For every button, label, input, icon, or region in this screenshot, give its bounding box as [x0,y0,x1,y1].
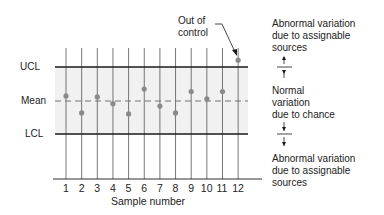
x-tick-label: 11 [217,182,228,194]
data-point [95,94,100,99]
data-point [157,104,162,109]
data-point [204,96,209,101]
out-of-control-label: Out of control [178,15,208,39]
data-point [142,87,147,92]
note-line: Abnormal variation [272,18,355,30]
mean-label: Mean [21,95,46,107]
note-line: variation [272,97,335,109]
arrow-down-icon [282,142,286,146]
arrow-up-icon [282,56,286,60]
arrow-icon [282,70,286,74]
data-point [79,110,84,115]
leader-line [215,24,235,52]
note-abnormal-bottom: Abnormal variation due to assignable sou… [272,153,355,189]
arrowhead-icon [232,49,237,56]
x-tick-label: 1 [63,182,69,194]
data-point [110,101,115,106]
arrow-down-icon [282,127,286,131]
note-line: due to assignable [272,165,355,177]
note-normal: Normal variation due to chance [272,85,335,121]
data-point [189,89,194,94]
x-tick-label: 8 [173,182,179,194]
x-tick-label: 6 [141,182,147,194]
data-point [126,111,131,116]
note-line: due to assignable [272,30,355,42]
x-tick-label: 9 [188,182,194,194]
x-tick-label: 5 [126,182,132,194]
x-tick-label: 3 [94,182,100,194]
ucl-label: UCL [20,61,40,73]
note-line: Normal [272,85,335,97]
x-tick-label: 4 [110,182,116,194]
control-band [55,67,248,134]
data-point [173,110,178,115]
data-point [220,89,225,94]
out-of-control-line2: control [178,27,208,39]
note-line: due to chance [272,109,335,121]
data-point [236,58,241,63]
note-abnormal-top: Abnormal variation due to assignable sou… [272,18,355,54]
control-chart: UCL Mean LCL Sample number Out of contro… [0,0,384,215]
note-line: sources [272,177,355,189]
x-tick-label: 12 [232,182,244,194]
x-tick-label: 10 [201,182,213,194]
note-line: Abnormal variation [272,153,355,165]
data-point [63,93,68,98]
x-tick-label: 7 [157,182,163,194]
x-axis-title: Sample number [111,195,185,207]
note-line: sources [272,42,355,54]
x-tick-label: 2 [79,182,85,194]
lcl-label: LCL [25,128,43,140]
out-of-control-line1: Out of [178,15,208,27]
